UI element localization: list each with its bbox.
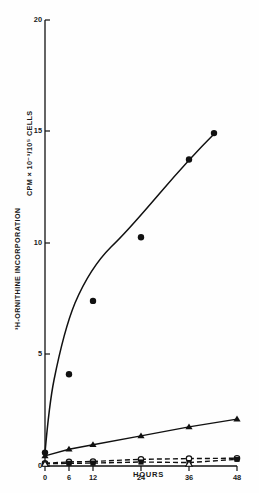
x-tick-label-12: 12 (85, 473, 101, 482)
x-tick-label-6: 6 (61, 473, 77, 482)
x-tick-label-0: 0 (37, 473, 53, 482)
y-tick-label-20: 20 (26, 15, 42, 24)
markers-filled-circle (42, 130, 217, 456)
x-axis-title: HOURS (133, 470, 164, 479)
x-tick-label-36: 36 (181, 473, 197, 482)
y-axis-title: ³H-ORNITHINE INCORPORATION (13, 208, 22, 330)
markers-filled-triangle (41, 416, 240, 459)
y-tick-label-0: 0 (26, 461, 42, 470)
y-tick-label-5: 5 (26, 349, 42, 358)
y-tick-marks (45, 20, 50, 466)
axis-lines (45, 20, 237, 466)
series-filled-circle-line (45, 134, 214, 453)
x-tick-label-48: 48 (229, 473, 245, 482)
figure-panel: 20 15 10 5 0 0 6 12 24 36 48 CPM × 10⁻³/… (0, 0, 259, 493)
y-axis-title-units: CPM × 10⁻³/10⁵ CELLS (25, 111, 34, 196)
y-tick-label-10: 10 (26, 238, 42, 247)
